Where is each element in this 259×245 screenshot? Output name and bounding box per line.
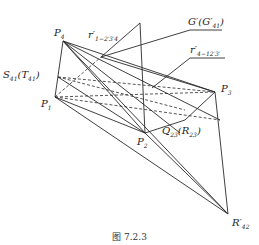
edge-p3-r42 bbox=[215, 92, 228, 214]
edge-p4-r42 bbox=[63, 41, 228, 214]
label-p4: P4 bbox=[54, 28, 65, 40]
label-r42: R′42 bbox=[232, 218, 249, 230]
edge-s41-p2 bbox=[58, 77, 145, 133]
edge-p4-p1 bbox=[55, 41, 63, 97]
label-s41: S41(T41) bbox=[3, 70, 40, 82]
geometry-diagram bbox=[0, 0, 259, 245]
dash-p1-r1 bbox=[55, 57, 101, 97]
label-r4: r′4−12′3′ bbox=[190, 45, 220, 57]
dash-p1-q23 bbox=[55, 97, 220, 120]
edge-p4-mid1 bbox=[63, 41, 180, 133]
label-q23: Q23(R23) bbox=[162, 126, 201, 138]
label-p3: P3 bbox=[221, 84, 232, 96]
label-g41: G′(G′41) bbox=[188, 17, 224, 29]
dash-p1-p3 bbox=[55, 92, 215, 97]
figure-caption: 图 7.2.3 bbox=[0, 230, 259, 243]
edge-p1-r42 bbox=[55, 97, 228, 214]
label-p2: P2 bbox=[137, 137, 148, 149]
edge-apex-p2 bbox=[140, 23, 145, 133]
label-r1: r′1−2′3′4 bbox=[88, 30, 118, 42]
edge-p2-r42 bbox=[145, 133, 228, 214]
label-p1: P1 bbox=[41, 99, 52, 111]
